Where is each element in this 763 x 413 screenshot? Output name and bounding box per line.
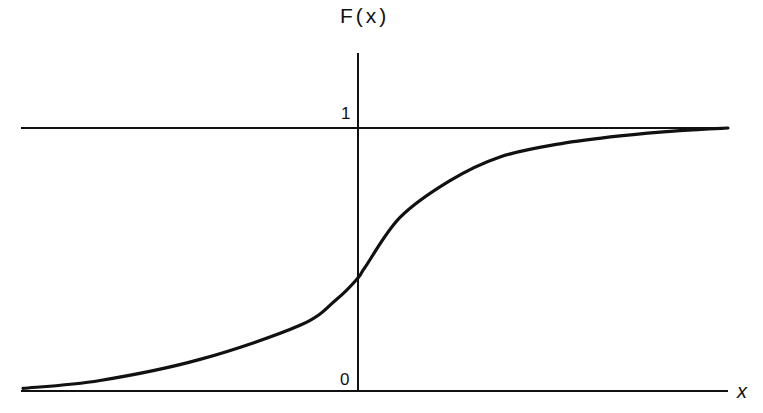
cdf-curve <box>23 128 728 388</box>
y-tick-zero: 0 <box>340 370 349 390</box>
x-axis-label: x <box>737 380 747 403</box>
y-tick-one: 1 <box>341 104 350 124</box>
cdf-chart <box>0 0 763 413</box>
y-axis-label: F(x) <box>340 4 389 28</box>
